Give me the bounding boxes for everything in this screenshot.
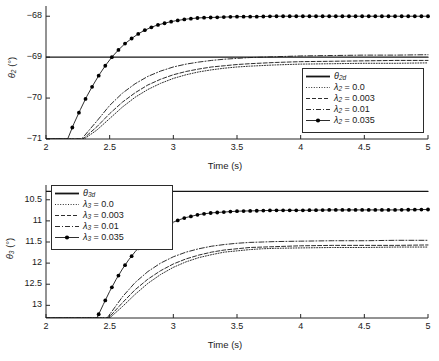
series-marker: [123, 263, 127, 267]
x-tick-label: 2: [32, 142, 60, 152]
series-marker: [426, 208, 430, 212]
legend-label: λ3 = 0.035: [80, 232, 124, 244]
x-tick-label: 5: [414, 142, 439, 152]
series-marker: [340, 14, 344, 18]
series-marker: [347, 14, 351, 18]
series-marker: [189, 17, 193, 21]
series-marker: [321, 14, 325, 18]
y-tick-label: 12: [10, 257, 42, 267]
series-marker: [354, 14, 358, 18]
series-marker: [301, 14, 305, 18]
series-marker: [347, 208, 351, 212]
series-marker: [334, 14, 338, 18]
series-marker: [163, 21, 167, 25]
series-marker: [393, 14, 397, 18]
series-marker: [255, 209, 259, 213]
x-axis-label-theta3: Time (s): [185, 339, 265, 350]
x-tick-label: 4: [287, 142, 315, 152]
x-tick-label: 4.5: [350, 142, 378, 152]
series-marker: [176, 219, 180, 223]
series-marker: [209, 211, 213, 215]
legend-item: λ3 = 0.01: [54, 221, 169, 232]
series-marker: [123, 42, 127, 46]
series-marker: [387, 208, 391, 212]
series-marker: [202, 212, 206, 216]
series-marker: [130, 37, 134, 41]
legend-swatch-marker: [54, 232, 80, 243]
series-marker: [321, 208, 325, 212]
x-tick-label: 3: [159, 321, 187, 331]
x-tick-label: 3.5: [223, 321, 251, 331]
x-tick-label: 5: [414, 321, 439, 331]
legend-theta2: θ2dλ2 = 0.0λ2 = 0.003λ2 = 0.01λ2 = 0.035: [302, 68, 424, 133]
series-marker: [314, 208, 318, 212]
y-tick-label: 13: [10, 299, 42, 309]
series-marker: [327, 208, 331, 212]
series-marker: [242, 209, 246, 213]
x-tick-label: 2.5: [96, 142, 124, 152]
series-marker: [373, 208, 377, 212]
series-marker: [294, 208, 298, 212]
series-marker: [143, 28, 147, 32]
series-line: [46, 240, 428, 318]
legend-item: λ2 = 0.01: [305, 104, 420, 115]
x-tick-label: 3.5: [223, 142, 251, 152]
series-marker: [327, 14, 331, 18]
x-tick-label: 2: [32, 321, 60, 331]
series-marker: [90, 85, 94, 89]
y-tick-label: −71: [10, 133, 42, 143]
legend-item: λ2 = 0.035: [305, 115, 420, 126]
series-marker: [281, 208, 285, 212]
series-marker: [294, 14, 298, 18]
panel-theta2: θ2 (°) Time (s) θ2dλ2 = 0.0λ2 = 0.003λ2 …: [0, 0, 439, 180]
y-tick-label: −70: [10, 92, 42, 102]
series-marker: [380, 208, 384, 212]
series-marker: [301, 208, 305, 212]
series-marker: [367, 208, 371, 212]
series-marker: [136, 32, 140, 36]
legend-item: λ2 = 0.003: [305, 93, 420, 104]
x-tick-label: 4: [287, 321, 315, 331]
y-tick-label: 11.5: [10, 236, 42, 246]
series-marker: [354, 208, 358, 212]
series-marker: [97, 312, 101, 316]
series-marker: [308, 14, 312, 18]
legend-swatch-dotted: [305, 82, 331, 93]
series-marker: [235, 15, 239, 19]
series-marker: [380, 14, 384, 18]
series-marker: [275, 14, 279, 18]
series-marker: [413, 14, 417, 18]
series-marker: [426, 14, 430, 18]
legend-swatch-marker: [305, 115, 331, 126]
series-marker: [182, 17, 186, 21]
series-marker: [275, 208, 279, 212]
series-marker: [334, 208, 338, 212]
series-marker: [308, 208, 312, 212]
series-marker: [215, 211, 219, 215]
series-marker: [255, 15, 259, 19]
series-marker: [222, 15, 226, 19]
series-marker: [84, 97, 88, 101]
series-marker: [222, 210, 226, 214]
series-line: [46, 245, 428, 318]
series-marker: [288, 14, 292, 18]
legend-swatch-solid: [305, 71, 331, 82]
series-marker: [406, 208, 410, 212]
series-marker: [229, 210, 233, 214]
x-tick-label: 4.5: [350, 321, 378, 331]
legend-item: λ3 = 0.003: [54, 210, 169, 221]
y-tick-label: 10.5: [10, 194, 42, 204]
series-marker: [420, 14, 424, 18]
series-marker: [77, 111, 81, 115]
series-marker: [215, 15, 219, 19]
series-marker: [268, 209, 272, 213]
series-marker: [406, 14, 410, 18]
legend-swatch-dashdot: [305, 104, 331, 115]
legend-label: λ2 = 0.035: [331, 115, 375, 127]
series-marker: [169, 20, 173, 24]
series-marker: [281, 14, 285, 18]
series-marker: [248, 15, 252, 19]
y-tick-label: 12.5: [10, 278, 42, 288]
y-tick-label: 11: [10, 215, 42, 225]
series-marker: [229, 15, 233, 19]
